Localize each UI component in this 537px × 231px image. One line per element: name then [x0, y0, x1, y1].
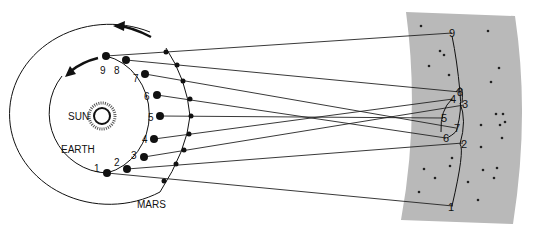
sky-pos-9: 9 [449, 27, 455, 39]
earth-direction-arrow-icon [71, 58, 98, 71]
sun-icon [89, 103, 115, 129]
earth-pos-6: 6 [144, 91, 150, 102]
earth-pos-2: 2 [114, 157, 120, 168]
earth-pos-8: 8 [114, 65, 120, 76]
earth-pos-3: 3 [131, 150, 137, 161]
mars-arrowhead-icon [113, 21, 125, 31]
earth-pos-7: 7 [133, 73, 139, 84]
sky-pos-2: 2 [461, 138, 467, 150]
sky-pos-3: 3 [462, 98, 468, 110]
earth-pos-1: 1 [94, 163, 100, 174]
earth-pos-4: 4 [142, 134, 148, 145]
sky-pos-4: 4 [450, 93, 456, 105]
sky-pos-6: 6 [443, 132, 449, 144]
sky-pos-1: 1 [448, 201, 454, 213]
sun-label: SUN [68, 111, 89, 122]
earth-label: EARTH [61, 144, 95, 155]
retrograde-motion-diagram: SUN EARTH MARS 1 2 3 4 5 6 7 8 9 1 2 3 4… [0, 0, 537, 231]
mars-label: MARS [137, 199, 166, 210]
sky-pos-5: 5 [441, 112, 447, 124]
earth-pos-5: 5 [148, 112, 154, 123]
sky-pos-8: 8 [457, 86, 463, 98]
sky-pos-7: 7 [454, 122, 460, 134]
earth-pos-9: 9 [100, 65, 106, 76]
